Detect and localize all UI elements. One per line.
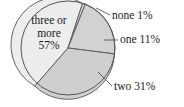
pie-label-two: two 31% <box>114 80 155 93</box>
pie-label-three-or-more-line3: 57% <box>18 39 80 52</box>
pie-label-one: one 11% <box>120 33 160 46</box>
pie-label-three-or-more-line2: more <box>18 27 80 40</box>
pie-chart: three or more 57% none 1% one 11% two 31… <box>0 0 184 107</box>
pie-label-none: none 1% <box>112 9 153 22</box>
pie-label-three-or-more: three or more 57% <box>18 14 80 52</box>
pie-label-three-or-more-line1: three or <box>18 14 80 27</box>
